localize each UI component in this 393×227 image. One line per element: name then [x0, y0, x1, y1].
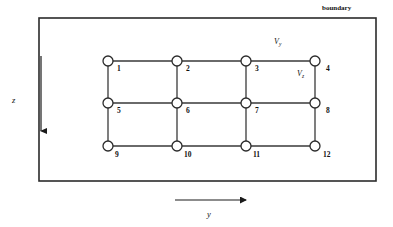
grid-node	[310, 141, 320, 151]
grid-node	[103, 141, 113, 151]
node-label: 1	[117, 65, 121, 73]
grid-node	[172, 56, 182, 66]
mesh-diagram-canvas	[0, 0, 393, 227]
node-label: 4	[326, 65, 330, 73]
node-label: 12	[323, 151, 331, 159]
node-label: 8	[326, 107, 330, 115]
node-label: 10	[184, 151, 192, 159]
grid-node	[241, 56, 251, 66]
grid-node	[172, 98, 182, 108]
v-y-subscript: y	[279, 41, 281, 47]
grid-edges	[108, 61, 315, 146]
node-label: 2	[186, 65, 190, 73]
grid-node	[103, 98, 113, 108]
node-label: 5	[117, 107, 121, 115]
v-y-spacing-label: Vy	[274, 38, 281, 46]
node-label: 9	[115, 151, 119, 159]
grid-node	[241, 141, 251, 151]
node-label: 7	[255, 107, 259, 115]
node-label: 11	[253, 151, 260, 159]
node-label: 3	[255, 65, 259, 73]
grid-node	[310, 56, 320, 66]
y-axis-label: y	[207, 210, 211, 219]
grid-node	[103, 56, 113, 66]
grid-node	[172, 141, 182, 151]
grid-node	[241, 98, 251, 108]
v-z-spacing-label: Vz	[297, 70, 304, 78]
v-z-subscript: z	[302, 73, 304, 79]
grid-node	[310, 98, 320, 108]
node-label: 6	[186, 107, 190, 115]
z-axis-label: z	[12, 96, 15, 105]
boundary-label: boundary	[322, 5, 351, 12]
